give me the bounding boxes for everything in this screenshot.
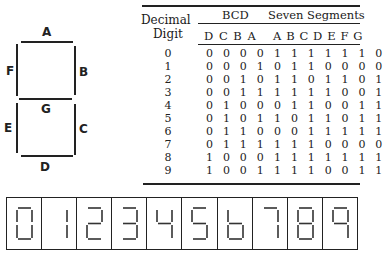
segment-a — [21, 41, 73, 43]
table-top-rule — [142, 5, 360, 7]
row-segments: 1 1 1 0 0 0 0 — [274, 138, 386, 151]
row-bcd: 0 1 1 1 — [206, 138, 267, 151]
segment-b — [74, 46, 76, 95]
header-seven-segments: Seven Segments — [268, 8, 365, 22]
row-segments: 1 1 0 1 1 0 1 — [274, 73, 386, 86]
digit-glyph-9 — [323, 198, 358, 248]
digit-glyph-7 — [253, 198, 288, 248]
segment-g — [19, 98, 72, 100]
digit-glyph-6 — [218, 198, 253, 248]
digit-cell — [77, 198, 112, 249]
row-segments: 0 1 1 0 0 1 1 — [274, 99, 386, 112]
row-bcd: 1 0 0 1 — [206, 164, 267, 177]
digit-cell — [288, 198, 323, 249]
row-segments: 1 0 1 1 0 1 1 — [274, 112, 386, 125]
digit-glyph-3 — [112, 198, 147, 248]
segment-f — [16, 44, 18, 96]
row-bcd: 0 1 0 0 — [206, 99, 267, 112]
row-bcd: 0 1 1 0 — [206, 125, 267, 138]
header-bottom-rule — [198, 44, 360, 45]
label-b: B — [79, 65, 88, 79]
label-e: E — [4, 121, 12, 135]
row-digit: 1 — [158, 60, 178, 73]
header-bcd: BCD — [222, 8, 249, 22]
digit-cell — [7, 198, 42, 249]
row-bcd: 0 0 1 1 — [206, 86, 267, 99]
row-bcd: 0 0 0 0 — [206, 47, 267, 60]
group-header-rule — [198, 23, 360, 24]
table-bottom-rule — [143, 183, 360, 185]
digit-cell — [218, 198, 253, 249]
digit-glyph-4 — [147, 198, 182, 248]
digit-cell — [253, 198, 288, 249]
row-digit: 8 — [158, 151, 178, 164]
row-digit: 3 — [158, 86, 178, 99]
label-f: F — [6, 64, 14, 78]
digit-glyph-8 — [288, 198, 323, 248]
row-digit: 7 — [158, 138, 178, 151]
segment-d — [21, 155, 73, 157]
row-bcd: 0 1 0 1 — [206, 112, 267, 125]
digit-cell — [182, 198, 217, 249]
header-digit: Digit — [153, 27, 183, 41]
row-segments: 0 0 1 1 1 1 1 — [274, 125, 386, 138]
digit-cell — [323, 198, 357, 249]
digit-cell — [42, 198, 77, 249]
segment-c — [74, 104, 76, 155]
row-digit: 5 — [158, 112, 178, 125]
row-segments: 1 1 1 1 0 0 1 — [274, 86, 386, 99]
digit-glyph-2 — [77, 198, 112, 248]
label-a: A — [42, 25, 51, 39]
row-digit: 2 — [158, 73, 178, 86]
row-digit: 6 — [158, 125, 178, 138]
row-digit: 0 — [158, 47, 178, 60]
row-bcd: 0 0 1 0 — [206, 73, 267, 86]
row-segments: 1 1 1 0 0 1 1 — [274, 164, 386, 177]
row-digit: 9 — [158, 164, 178, 177]
segment-e — [16, 103, 18, 153]
row-segments: 1 1 1 1 1 1 1 — [274, 151, 386, 164]
label-g: G — [41, 102, 51, 116]
header-segment-bits: A B C D E F G — [273, 29, 363, 43]
digit-glyph-5 — [182, 198, 217, 248]
digit-cell — [147, 198, 182, 249]
seven-segment-display-strip — [6, 197, 358, 250]
digit-glyph-1 — [42, 198, 77, 248]
row-segments: 1 1 1 1 1 1 0 — [274, 47, 386, 60]
row-bcd: 0 0 0 1 — [206, 60, 267, 73]
digit-glyph-0 — [7, 198, 42, 248]
header-bcd-bits: D C B A — [204, 29, 257, 43]
header-decimal: Decimal — [141, 13, 191, 27]
row-segments: 0 1 1 0 0 0 0 — [274, 60, 386, 73]
row-digit: 4 — [158, 99, 178, 112]
row-bcd: 1 0 0 0 — [206, 151, 267, 164]
label-d: D — [40, 160, 50, 174]
label-c: C — [79, 122, 88, 136]
digit-cell — [112, 198, 147, 249]
